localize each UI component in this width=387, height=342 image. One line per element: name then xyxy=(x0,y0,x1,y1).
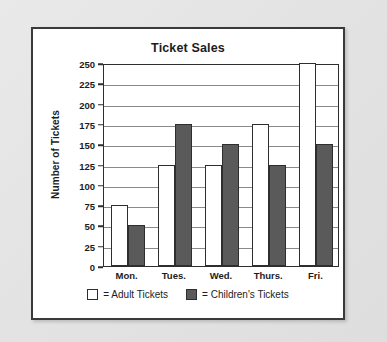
y-tick-label: 0 xyxy=(90,262,95,273)
bar-adult xyxy=(252,124,269,266)
y-axis-tick-labels: 2502252001751501251007550250 xyxy=(33,29,103,318)
bar-group xyxy=(111,65,145,266)
bar-adult xyxy=(205,165,222,267)
bar-children xyxy=(222,144,239,266)
y-tick-label: 175 xyxy=(79,119,95,130)
legend-label: = Children's Tickets xyxy=(202,289,289,300)
y-tick-label: 75 xyxy=(84,201,95,212)
y-tick-label: 150 xyxy=(79,140,95,151)
legend-label: = Adult Tickets xyxy=(103,289,168,300)
bar-children xyxy=(269,165,286,267)
chart-card: Ticket Sales Number of Tickets 250225200… xyxy=(31,27,345,320)
y-tick-label: 125 xyxy=(79,160,95,171)
bar-group xyxy=(158,65,192,266)
y-tick-label: 200 xyxy=(79,99,95,110)
bar-children xyxy=(128,225,145,266)
bar-adult xyxy=(111,205,128,266)
bar-children xyxy=(316,144,333,266)
legend-item: = Adult Tickets xyxy=(87,289,168,300)
bar-children xyxy=(175,124,192,266)
legend-swatch-children xyxy=(186,289,197,300)
y-tick-label: 225 xyxy=(79,79,95,90)
x-tick-label: Fri. xyxy=(308,270,323,281)
y-tick-label: 100 xyxy=(79,180,95,191)
plot-area xyxy=(103,64,339,267)
bar-group xyxy=(205,65,239,266)
x-tick-label: Thurs. xyxy=(254,270,283,281)
page-background: Ticket Sales Number of Tickets 250225200… xyxy=(0,0,387,342)
bar-group xyxy=(299,65,333,266)
bar-group xyxy=(252,65,286,266)
bar-adult xyxy=(158,165,175,267)
x-tick-label: Mon. xyxy=(116,270,138,281)
bar-adult xyxy=(299,63,316,266)
legend-item: = Children's Tickets xyxy=(186,289,289,300)
x-axis-tick-labels: Mon.Tues.Wed.Thurs.Fri. xyxy=(103,270,339,286)
x-tick-label: Tues. xyxy=(162,270,186,281)
chart-legend: = Adult Tickets= Children's Tickets xyxy=(33,289,343,300)
bars-layer xyxy=(104,65,338,266)
legend-swatch-adult xyxy=(87,289,98,300)
x-tick-label: Wed. xyxy=(210,270,233,281)
y-tick-label: 250 xyxy=(79,59,95,70)
y-tick-label: 50 xyxy=(84,221,95,232)
y-tick-label: 25 xyxy=(84,241,95,252)
